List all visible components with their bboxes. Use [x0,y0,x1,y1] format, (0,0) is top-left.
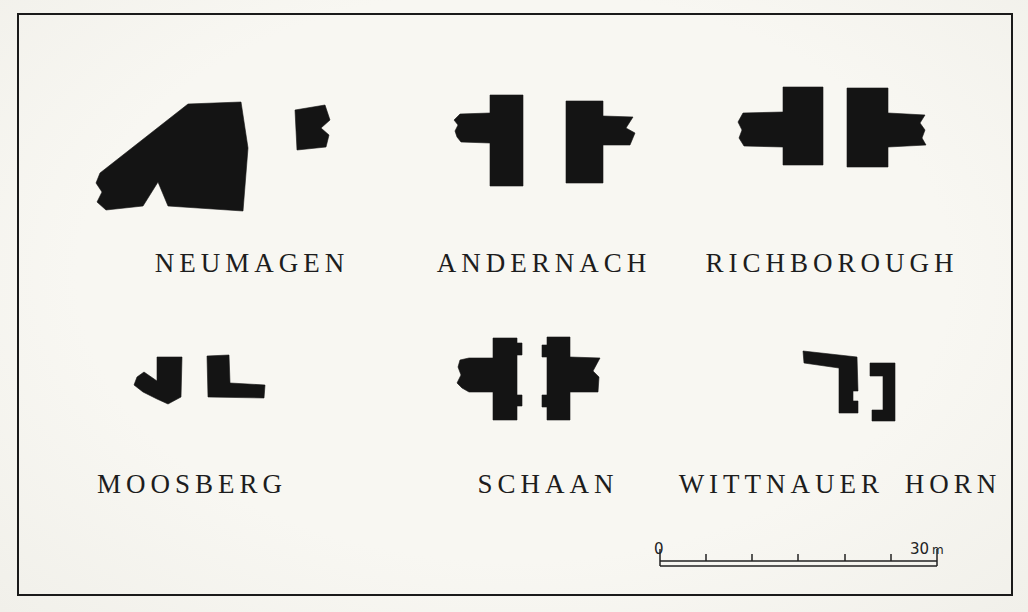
wittnauer-horn-right-structure [870,363,895,421]
andernach-right-tower [566,101,635,183]
plan-label-richborough: RICHBOROUGH [662,248,1002,279]
plan-label-moosberg: MOOSBERG [22,469,362,500]
wittnauer-horn-left-structure [803,351,858,413]
schaan-gate-plan [455,334,605,426]
andernach-gate-plan [452,93,637,191]
moosberg-left-tower [134,357,182,404]
richborough-right-tower [847,88,926,167]
scale-unit: m [932,543,944,557]
moosberg-gate-plan [130,352,270,407]
plan-label-wittnauer-horn: WITTNAUER HORN [670,469,1010,500]
plan-label-neumagen: NEUMAGEN [82,248,422,279]
scale-end-label: 30 m [910,540,956,558]
neumagen-main-block [96,102,248,211]
andernach-left-tower [454,95,523,186]
scale-end-value: 30 [910,540,929,558]
neumagen-gate-plan [93,98,332,214]
richborough-left-tower [738,87,823,165]
neumagen-detached-block [295,105,330,150]
schaan-right-tower [542,337,600,420]
scale-start-label: 0 [654,540,664,558]
richborough-gate-plan [736,85,931,170]
schaan-left-tower [457,338,522,420]
scale-bar: 0 30 m [650,534,955,576]
plan-label-schaan: SCHAAN [378,469,718,500]
wittnauer-horn-gate-plan [800,348,896,424]
moosberg-right-tower [207,355,265,398]
